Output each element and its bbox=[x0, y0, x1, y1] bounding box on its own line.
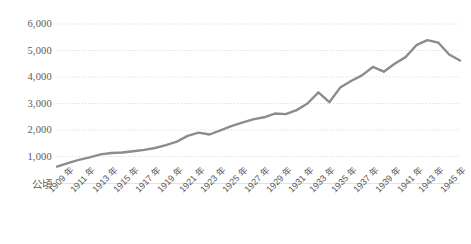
line-chart: 1,0002,0003,0004,0005,0006,000 公頃 1909 年… bbox=[0, 0, 471, 244]
x-axis-tick-labels: 1909 年1911 年1913 年1915 年1917 年1919 年1921… bbox=[0, 0, 471, 244]
